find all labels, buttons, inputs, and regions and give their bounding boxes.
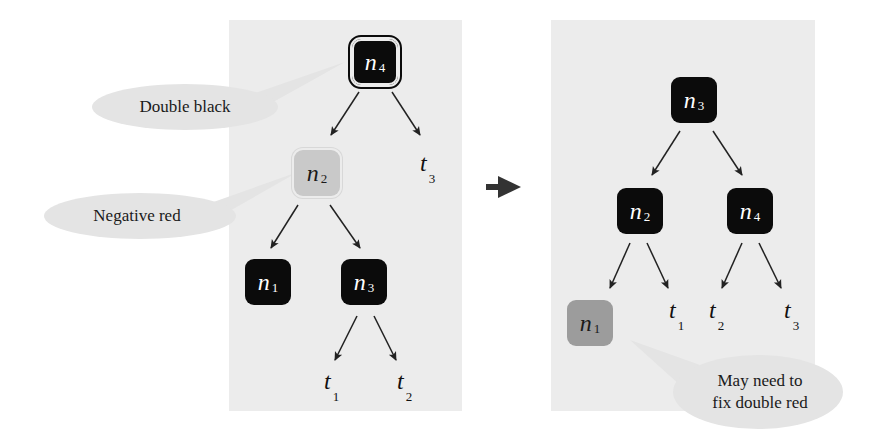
before-node-n1: n1 bbox=[245, 259, 291, 305]
before-node-n3: n3 bbox=[341, 259, 387, 305]
callout-line-1: May need to bbox=[680, 370, 840, 392]
before-leaf-t3: t3 bbox=[420, 150, 435, 181]
callout-may-need-fix: May need to fix double red bbox=[680, 370, 840, 414]
after-leaf-t2: t2 bbox=[709, 297, 724, 328]
after-node-n3: n3 bbox=[671, 77, 717, 123]
before-node-n2: n2 bbox=[294, 150, 340, 196]
after-node-n1: n1 bbox=[567, 300, 613, 346]
callout-line-2: fix double red bbox=[680, 392, 840, 414]
after-node-n4: n4 bbox=[727, 188, 773, 234]
callout-negative-red: Negative red bbox=[62, 205, 212, 227]
after-leaf-t1: t1 bbox=[669, 297, 684, 328]
before-edges bbox=[271, 92, 420, 360]
before-leaf-t1: t1 bbox=[324, 368, 339, 399]
after-leaf-t3: t3 bbox=[784, 297, 799, 328]
before-leaf-t2: t2 bbox=[397, 368, 412, 399]
transition-arrow-icon bbox=[486, 176, 521, 198]
after-node-n2: n2 bbox=[617, 188, 663, 234]
before-node-n4: n4 bbox=[352, 39, 398, 85]
callout-double-black: Double black bbox=[110, 96, 260, 118]
